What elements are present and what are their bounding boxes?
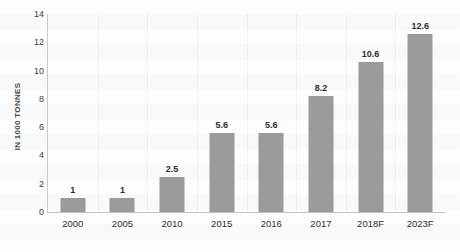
bar-group: 1 — [98, 14, 148, 212]
y-axis-tick: 10 — [22, 66, 44, 76]
x-axis-tick: 2016 — [261, 218, 282, 229]
bar-value-label: 10.6 — [362, 49, 380, 59]
x-axis-tick: 2018F — [357, 218, 384, 229]
plot-area: 112.55.65.68.210.612.6 — [48, 14, 445, 212]
x-axis-tick: 2017 — [310, 218, 331, 229]
x-axis-tick: 2005 — [112, 218, 133, 229]
bar-value-label: 1 — [70, 185, 75, 195]
x-axis-line — [47, 212, 445, 213]
y-axis-tick: 14 — [22, 9, 44, 19]
y-axis-tick-labels: 02468101214 — [22, 0, 44, 252]
y-axis-tick: 2 — [22, 179, 44, 189]
bar — [408, 34, 433, 212]
x-axis-tick: 2015 — [211, 218, 232, 229]
bar-chart: IN 1000 TONNES 02468101214 112.55.65.68.… — [0, 0, 460, 252]
bar — [209, 133, 234, 212]
bar — [160, 177, 185, 212]
x-axis-tick-labels: 2000200520102015201620172018F2023F — [48, 218, 445, 238]
bar-group: 8.2 — [296, 14, 346, 212]
bar — [259, 133, 284, 212]
bar — [110, 198, 135, 212]
bar — [358, 62, 383, 212]
bar-value-label: 8.2 — [315, 83, 328, 93]
y-axis-tick: 4 — [22, 150, 44, 160]
bar-group: 1 — [48, 14, 98, 212]
bar-value-label: 2.5 — [166, 164, 179, 174]
bar — [308, 96, 333, 212]
x-axis-tick: 2000 — [62, 218, 83, 229]
bar-group: 10.6 — [346, 14, 396, 212]
y-axis-title: IN 1000 TONNES — [13, 69, 22, 165]
bar-value-label: 12.6 — [411, 21, 429, 31]
y-axis-tick: 8 — [22, 94, 44, 104]
bar-group: 5.6 — [197, 14, 247, 212]
bar-value-label: 5.6 — [215, 120, 228, 130]
bar-group: 12.6 — [395, 14, 445, 212]
bar-value-label: 5.6 — [265, 120, 278, 130]
x-axis-tick: 2023F — [407, 218, 434, 229]
bar-group: 5.6 — [247, 14, 297, 212]
bar-group: 2.5 — [147, 14, 197, 212]
y-axis-tick: 0 — [22, 207, 44, 217]
bar — [60, 198, 85, 212]
bar-value-label: 1 — [120, 185, 125, 195]
y-axis-tick: 6 — [22, 122, 44, 132]
x-axis-tick: 2010 — [161, 218, 182, 229]
y-axis-tick: 12 — [22, 37, 44, 47]
